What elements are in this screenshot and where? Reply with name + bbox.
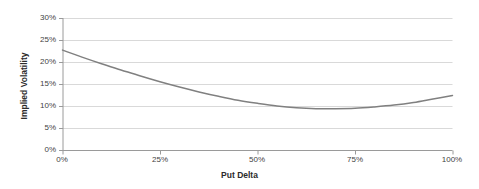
x-tick-label-75: 75% xyxy=(335,155,375,165)
series-line-0 xyxy=(63,50,453,109)
x-tick-label-25: 25% xyxy=(140,155,180,165)
y-axis-title: Implied Volatility xyxy=(19,21,29,151)
chart-container: 30% 25% 20% 15% 10% 5% 0% 0% 25% 50% 75%… xyxy=(0,0,479,189)
x-tick-label-100: 100% xyxy=(432,155,472,165)
x-tick-label-50: 50% xyxy=(237,155,277,165)
x-axis-title: Put Delta xyxy=(0,170,479,180)
axis-ticks xyxy=(59,19,453,155)
data-series-group xyxy=(63,50,453,109)
gridlines xyxy=(63,19,453,129)
x-tick-label-0: 0% xyxy=(42,155,82,165)
